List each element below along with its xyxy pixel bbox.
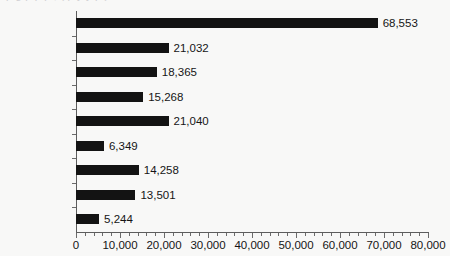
value-axis-tick-label: 10,000 — [102, 238, 137, 253]
category-tick — [72, 36, 76, 37]
category-tick — [72, 183, 76, 184]
bar-value-label: 6,349 — [109, 138, 138, 154]
value-axis-tick-label: 0 — [73, 238, 79, 253]
value-axis-minor-tick — [322, 233, 323, 236]
value-axis-minor-tick — [261, 233, 262, 236]
value-axis-minor-tick — [287, 233, 288, 236]
value-axis-minor-tick — [402, 233, 403, 236]
value-axis-minor-tick — [393, 233, 394, 236]
value-axis-tick-label: 50,000 — [278, 238, 313, 253]
bar-value-label: 14,258 — [144, 162, 179, 178]
bar[interactable] — [76, 43, 169, 53]
value-axis-minor-tick — [102, 233, 103, 236]
value-axis-tick-label: 70,000 — [366, 238, 401, 253]
bar-value-label: 18,365 — [162, 64, 197, 80]
value-axis-minor-tick — [270, 233, 271, 236]
value-axis-minor-tick — [243, 233, 244, 236]
value-axis-minor-tick — [349, 233, 350, 236]
value-axis-minor-tick — [94, 233, 95, 236]
bar-value-label: 21,040 — [174, 113, 209, 129]
value-axis-tick-label: 80,000 — [410, 238, 445, 253]
category-tick — [72, 60, 76, 61]
bar[interactable] — [76, 165, 139, 175]
value-axis-minor-tick — [366, 233, 367, 236]
bar[interactable] — [76, 190, 135, 200]
value-axis-minor-tick — [129, 233, 130, 236]
value-axis-tick-label: 40,000 — [234, 238, 269, 253]
value-axis-tick-label: 60,000 — [322, 238, 357, 253]
category-tick — [72, 85, 76, 86]
category-tick — [72, 134, 76, 135]
value-axis-minor-tick — [190, 233, 191, 236]
plot-area: 68,553Bicycles21,032Baseball18,365Softba… — [76, 11, 428, 232]
value-axis-minor-tick — [146, 233, 147, 236]
value-axis-minor-tick — [375, 233, 376, 236]
value-axis-minor-tick — [226, 233, 227, 236]
value-axis-minor-tick — [234, 233, 235, 236]
value-axis-minor-tick — [85, 233, 86, 236]
bar-value-label: 21,032 — [174, 40, 209, 56]
value-axis-minor-tick — [155, 233, 156, 236]
bar-value-label: 15,268 — [148, 89, 183, 105]
value-axis-minor-tick — [217, 233, 218, 236]
value-axis-minor-tick — [358, 233, 359, 236]
value-axis-tick-label: 30,000 — [190, 238, 225, 253]
bar[interactable] — [76, 92, 143, 102]
value-axis-minor-tick — [111, 233, 112, 236]
bar-value-label: 5,244 — [104, 211, 133, 227]
bar[interactable] — [76, 18, 378, 28]
value-axis-minor-tick — [305, 233, 306, 236]
value-axis-minor-tick — [419, 233, 420, 236]
value-axis-minor-tick — [314, 233, 315, 236]
value-axis-minor-tick — [410, 233, 411, 236]
bar-value-label: 68,553 — [383, 15, 418, 31]
value-axis-minor-tick — [331, 233, 332, 236]
bar[interactable] — [76, 116, 169, 126]
value-axis-minor-tick — [199, 233, 200, 236]
value-axis-minor-tick — [278, 233, 279, 236]
bar-value-label: 13,501 — [140, 187, 175, 203]
category-tick — [72, 207, 76, 208]
value-axis-minor-tick — [173, 233, 174, 236]
bar[interactable] — [76, 214, 99, 224]
value-axis-minor-tick — [138, 233, 139, 236]
bar[interactable] — [76, 141, 104, 151]
category-tick — [72, 109, 76, 110]
horizontal-bar-chart: 68,553Bicycles21,032Baseball18,365Softba… — [0, 0, 450, 256]
value-axis-minor-tick — [182, 233, 183, 236]
bar[interactable] — [76, 67, 157, 77]
value-axis-tick-label: 20,000 — [146, 238, 181, 253]
category-tick — [72, 158, 76, 159]
